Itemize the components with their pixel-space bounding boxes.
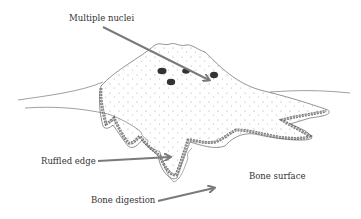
label-ruffled-edge: Ruffled edge [41,157,96,166]
label-bone-surface: Bone surface [249,172,305,181]
label-bone-digestion: Bone digestion [91,196,155,205]
diagram-drawing [0,0,361,219]
right-membrane-line [270,91,350,93]
nucleus [158,68,167,74]
nucleus [167,79,175,86]
osteoclast-diagram: Multiple nuclei Ruffled edge Bone surfac… [0,0,361,219]
label-multiple-nuclei: Multiple nuclei [69,14,134,23]
nucleus [210,72,218,78]
left-membrane-line [18,82,103,100]
arrow-bone-digestion [158,188,214,201]
